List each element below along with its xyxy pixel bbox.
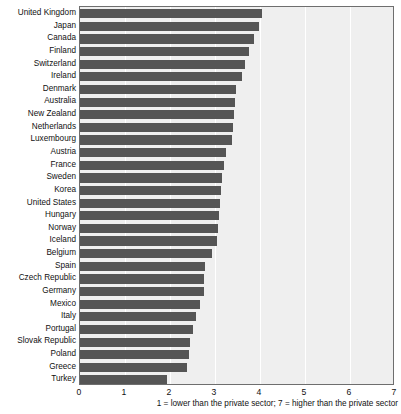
bar (80, 173, 222, 182)
bar-row (80, 20, 393, 34)
x-axis-tick-label: 4 (257, 387, 262, 397)
bar (80, 287, 204, 296)
bar (80, 325, 193, 334)
bar-row (80, 45, 393, 59)
bar (80, 338, 190, 347)
y-axis-label: Czech Republic (0, 271, 76, 285)
y-axis-label: France (0, 158, 76, 172)
y-axis-label: Slovak Republic (0, 334, 76, 348)
bar-row (80, 121, 393, 135)
bar (80, 98, 235, 107)
x-axis-tick-label: 7 (392, 387, 397, 397)
bar-chart: United KingdomJapanCanadaFinlandSwitzerl… (0, 0, 401, 414)
bar (80, 186, 221, 195)
bar-row (80, 209, 393, 223)
y-axis-label: United Kingdom (0, 6, 76, 20)
bar-row (80, 234, 393, 248)
bar-row (80, 184, 393, 198)
bar-row (80, 222, 393, 236)
bar (80, 236, 217, 245)
y-axis-label: Australia (0, 94, 76, 108)
bar-row (80, 159, 393, 173)
y-axis-label: Luxembourg (0, 132, 76, 146)
bar-row (80, 197, 393, 211)
y-axis-label: Italy (0, 309, 76, 323)
bar-row (80, 272, 393, 286)
bar-row (80, 7, 393, 21)
bar-row (80, 310, 393, 324)
bar-row (80, 361, 393, 375)
x-axis-note: 1 = lower than the private sector; 7 = h… (0, 399, 398, 408)
bar (80, 123, 233, 132)
chart-title (79, 0, 394, 5)
y-axis-label: Korea (0, 183, 76, 197)
y-axis-label: Canada (0, 31, 76, 45)
bar-row (80, 108, 393, 122)
bar (80, 135, 232, 144)
y-axis-label: Norway (0, 221, 76, 235)
y-axis-label: Netherlands (0, 120, 76, 134)
bar-row (80, 146, 393, 160)
bar (80, 85, 236, 94)
bar-row (80, 95, 393, 109)
x-axis-tick-label: 6 (347, 387, 352, 397)
bar-row (80, 58, 393, 72)
y-axis-label: United States (0, 196, 76, 210)
bar-row (80, 247, 393, 261)
bar-row (80, 348, 393, 362)
bar (80, 110, 234, 119)
bar (80, 22, 259, 31)
y-axis-label: Spain (0, 259, 76, 273)
y-axis-label: Germany (0, 284, 76, 298)
y-axis-label: Hungary (0, 208, 76, 222)
y-axis-label: Denmark (0, 82, 76, 96)
y-axis-label: Switzerland (0, 57, 76, 71)
bar (80, 60, 245, 69)
bar (80, 363, 187, 372)
bar (80, 148, 226, 157)
bar (80, 9, 262, 18)
bar (80, 350, 189, 359)
y-axis-label: Japan (0, 19, 76, 33)
bar (80, 274, 204, 283)
y-axis-label: Austria (0, 145, 76, 159)
x-axis-tick-label: 2 (167, 387, 172, 397)
y-axis-label: Finland (0, 44, 76, 58)
bar-row (80, 171, 393, 185)
x-axis-tick-label: 1 (122, 387, 127, 397)
bar (80, 47, 249, 56)
y-axis-label: Poland (0, 347, 76, 361)
y-axis-label: Greece (0, 360, 76, 374)
bar-row (80, 70, 393, 84)
bar-row (80, 285, 393, 299)
plot-area (79, 6, 394, 385)
bar (80, 72, 242, 81)
bar (80, 249, 212, 258)
bar (80, 300, 200, 309)
bar (80, 312, 196, 321)
bar-series (80, 7, 393, 384)
bar-row (80, 260, 393, 274)
x-axis-tick-label: 5 (302, 387, 307, 397)
bar (80, 262, 205, 271)
y-axis-label: Iceland (0, 233, 76, 247)
bar (80, 375, 167, 384)
y-axis-label: Mexico (0, 297, 76, 311)
bar-row (80, 32, 393, 46)
bar-row (80, 83, 393, 97)
bar (80, 199, 220, 208)
y-axis-category-labels: United KingdomJapanCanadaFinlandSwitzerl… (0, 6, 76, 385)
bar-row (80, 373, 393, 385)
x-axis-tick-label: 0 (77, 387, 82, 397)
bar-row (80, 323, 393, 337)
bar (80, 34, 254, 43)
y-axis-label: Portugal (0, 322, 76, 336)
y-axis-label: New Zealand (0, 107, 76, 121)
y-axis-label: Sweden (0, 170, 76, 184)
bar-row (80, 298, 393, 312)
bar-row (80, 335, 393, 349)
y-axis-label: Ireland (0, 69, 76, 83)
y-axis-label: Turkey (0, 372, 76, 386)
bar (80, 161, 224, 170)
y-axis-label: Belgium (0, 246, 76, 260)
